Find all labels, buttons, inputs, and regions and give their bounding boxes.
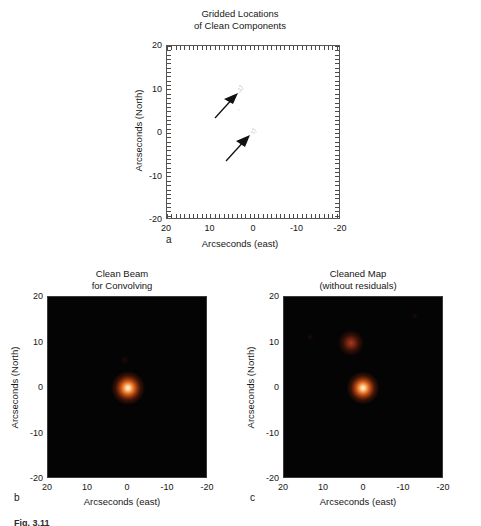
panel-c-yaxis-title: Arcseconds (North): [245, 328, 256, 448]
panel-b: Clean Beam for Convolving 20 10 0 -10 -2…: [8, 268, 236, 524]
panel-a-left-ticks: [167, 46, 171, 218]
panel-a-plot-area: [166, 45, 340, 219]
panel-c-plot-area: [283, 296, 443, 478]
panel-b-xtick-m20: -20: [200, 482, 213, 492]
panel-c-title: Cleaned Map (without residuals): [244, 268, 472, 291]
panel-a-xaxis-title: Arcseconds (east): [120, 238, 360, 249]
background-haze-1: [303, 333, 317, 341]
figure-caption-fragment: Fig. 3.11: [14, 518, 50, 526]
panel-c-xtick-20: 20: [278, 482, 288, 492]
panel-b-ytick-0: 0: [18, 382, 43, 392]
annotation-arrow-1: [211, 88, 245, 122]
panel-a-xtick-0: 0: [250, 223, 255, 233]
panel-c-xaxis-title: Arcseconds (east): [244, 496, 472, 507]
panel-c-xtick-m10: -10: [396, 482, 409, 492]
panel-b-ytick-m20: -20: [14, 473, 43, 483]
clean-component-cluster-2: [249, 128, 258, 137]
panel-a-xtick-20: 20: [161, 223, 171, 233]
panel-a-xtick-10: 10: [204, 223, 214, 233]
panel-a-ytick-20: 20: [138, 40, 162, 50]
panel-a-label: a: [166, 234, 172, 245]
panel-b-ytick-20: 20: [18, 291, 43, 301]
clean-component-cluster-1: [236, 86, 245, 95]
panel-c-ytick-0: 0: [254, 382, 279, 392]
clean-beam-source: [111, 371, 145, 405]
panel-a-title: Gridded Locations of Clean Components: [120, 8, 360, 31]
panel-a-yaxis-title: Arcseconds (North): [133, 71, 144, 191]
panel-b-plot-area: [47, 296, 207, 478]
panel-b-xtick-m10: -10: [160, 482, 173, 492]
panel-b-xtick-10: 10: [82, 482, 92, 492]
panel-a-bottom-ticks: [167, 214, 339, 218]
panel-a-right-ticks: [335, 46, 339, 218]
beam-sidelobe-haze: [119, 355, 132, 365]
panel-a-top-ticks: [167, 46, 339, 50]
panel-b-xtick-0: 0: [124, 482, 129, 492]
background-haze-2: [409, 312, 422, 320]
panel-b-xtick-20: 20: [42, 482, 52, 492]
panel-a-xtick-m10: -10: [290, 223, 303, 233]
panel-c-xtick-10: 10: [318, 482, 328, 492]
panel-c: Cleaned Map (without residuals) 20 10 0 …: [244, 268, 472, 524]
panel-b-ytick-10: 10: [18, 337, 43, 347]
secondary-source: [338, 330, 364, 356]
panel-a-ytick-m20: -20: [134, 214, 162, 224]
panel-c-xtick-0: 0: [360, 482, 365, 492]
figure-root: Gridded Locations of Clean Components: [0, 0, 481, 526]
panel-b-xaxis-title: Arcseconds (east): [8, 496, 236, 507]
panel-b-title: Clean Beam for Convolving: [8, 268, 236, 291]
panel-a-xtick-m20: -20: [333, 223, 346, 233]
panel-c-ytick-m20: -20: [250, 473, 279, 483]
panel-b-yaxis-title: Arcseconds (North): [9, 328, 20, 448]
panel-c-label: c: [250, 492, 255, 503]
primary-source: [347, 372, 380, 405]
panel-a: Gridded Locations of Clean Components: [120, 2, 360, 260]
panel-c-xtick-m20: -20: [436, 482, 449, 492]
stray-speck-1: [238, 109, 241, 112]
panel-c-ytick-10: 10: [254, 337, 279, 347]
panel-c-ytick-20: 20: [254, 291, 279, 301]
panel-b-label: b: [14, 492, 20, 503]
annotation-arrow-2: [223, 130, 257, 164]
